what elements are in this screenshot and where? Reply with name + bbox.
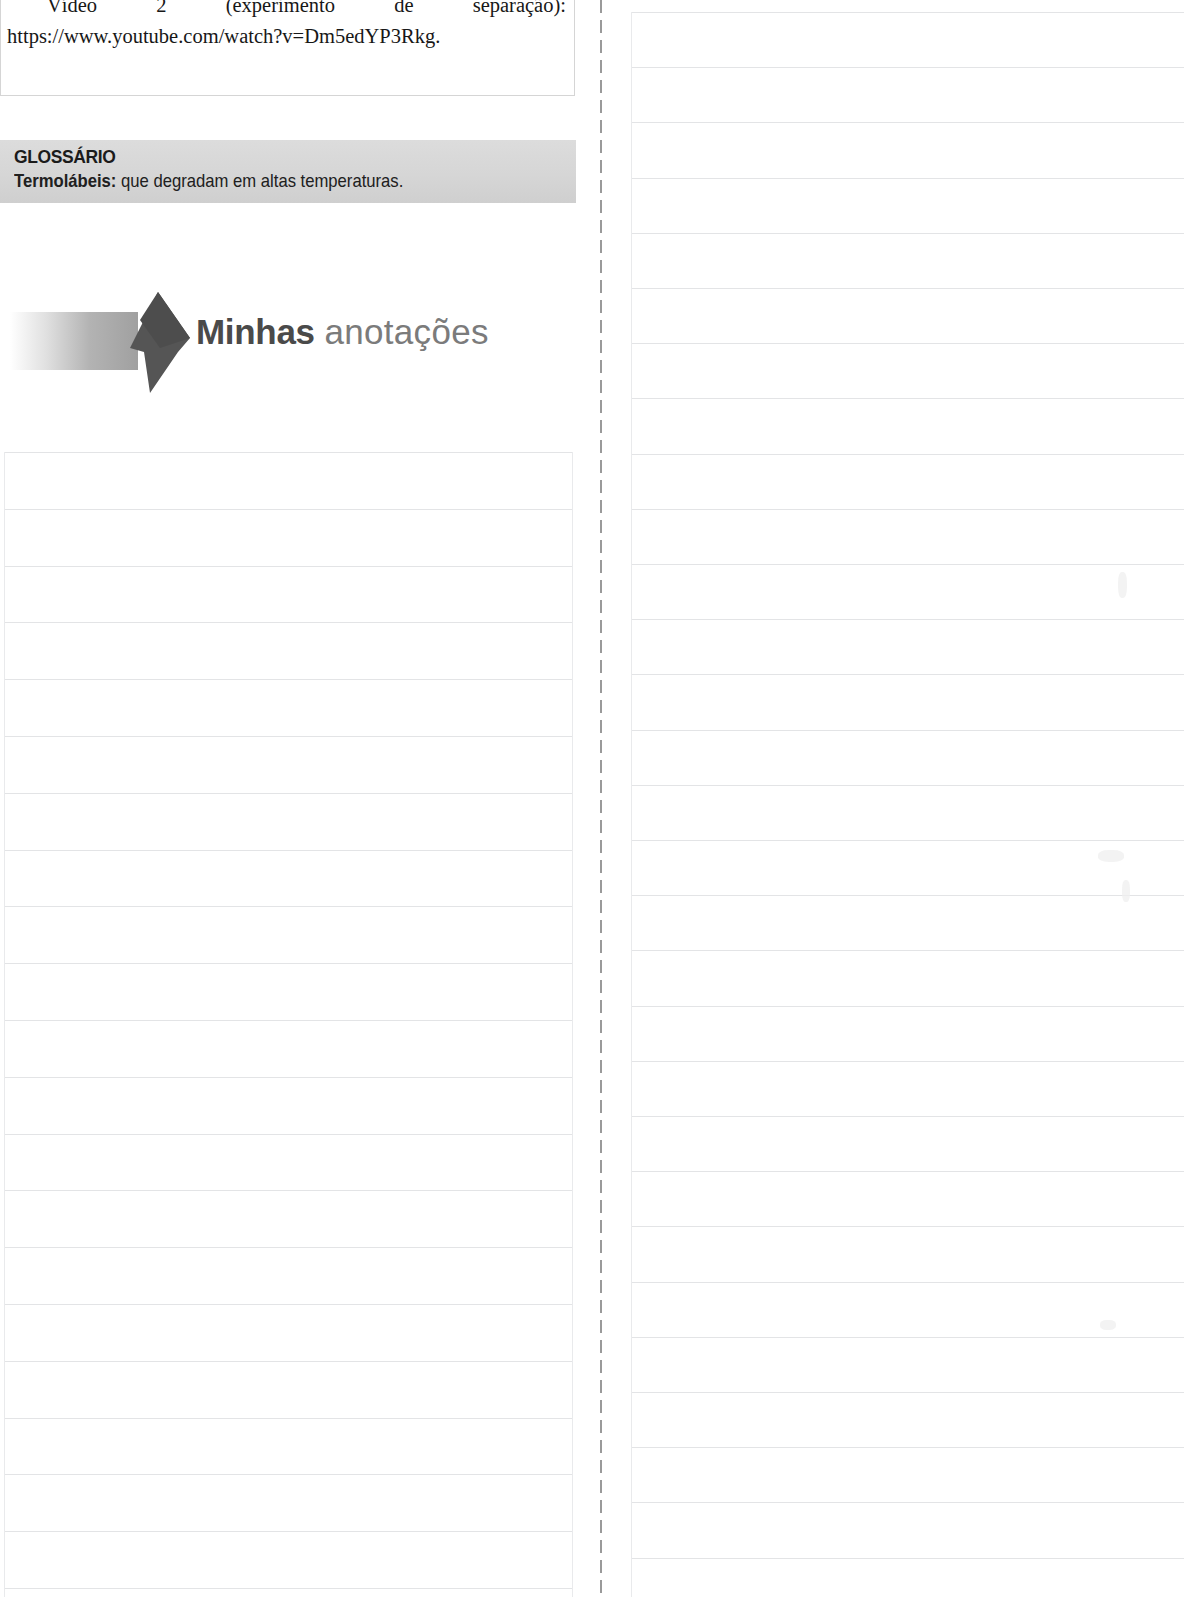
note-rule-line bbox=[631, 1282, 1184, 1283]
note-rule-line bbox=[631, 233, 1184, 234]
note-rule-line bbox=[631, 1116, 1184, 1117]
note-rule-line bbox=[631, 67, 1184, 68]
note-rule-line bbox=[631, 674, 1184, 675]
center-fold-dashed-line bbox=[600, 0, 602, 1597]
note-rule-line bbox=[631, 122, 1184, 123]
note-rule-line bbox=[631, 1226, 1184, 1227]
scan-artifact bbox=[1100, 1320, 1116, 1330]
note-rule-line bbox=[631, 785, 1184, 786]
note-rule-line bbox=[631, 1502, 1184, 1503]
note-rule-line bbox=[631, 288, 1184, 289]
note-rule-line bbox=[631, 840, 1184, 841]
note-rule-line bbox=[631, 398, 1184, 399]
notebook-page: watch?v=1OL6yhGYmzA. Vídeo 2 (experiment… bbox=[0, 0, 1184, 1597]
note-rule-line bbox=[631, 564, 1184, 565]
note-rule-line bbox=[631, 1006, 1184, 1007]
right-note-lines bbox=[0, 0, 553, 1597]
note-rule-line bbox=[631, 178, 1184, 179]
scan-artifact bbox=[1122, 880, 1130, 902]
note-rule-line bbox=[631, 509, 1184, 510]
note-rule-line bbox=[631, 1337, 1184, 1338]
note-rule-line bbox=[631, 1061, 1184, 1062]
note-rule-line bbox=[631, 1171, 1184, 1172]
note-rule-line bbox=[631, 950, 1184, 951]
note-rule-line bbox=[631, 1447, 1184, 1448]
note-right-border bbox=[572, 452, 573, 1597]
note-rule-line bbox=[631, 730, 1184, 731]
note-rule-line bbox=[631, 343, 1184, 344]
scan-artifact bbox=[1118, 572, 1127, 598]
note-left-border bbox=[631, 12, 632, 1597]
note-rule-line bbox=[631, 619, 1184, 620]
note-rule-line bbox=[631, 12, 1184, 13]
note-rule-line bbox=[631, 1392, 1184, 1393]
scan-artifact bbox=[1098, 850, 1124, 862]
note-rule-line bbox=[631, 895, 1184, 896]
note-rule-line bbox=[631, 454, 1184, 455]
note-rule-line bbox=[631, 1558, 1184, 1559]
